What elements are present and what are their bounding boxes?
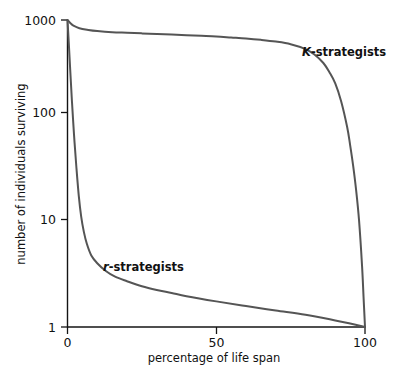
- x-tick-label-100: 100: [353, 335, 377, 350]
- y-tick-label-1000: 1000: [24, 13, 56, 28]
- y-tick-label-1: 1: [48, 320, 56, 335]
- x-tick-label-50: 50: [209, 335, 225, 350]
- chart-canvas: 1000 100 10 1 0 50 100 percentage of lif…: [0, 0, 401, 376]
- y-axis-title: number of individuals surviving: [14, 83, 28, 264]
- x-axis-title: percentage of life span: [148, 351, 281, 365]
- survivorship-curve-figure: 1000 100 10 1 0 50 100 percentage of lif…: [0, 0, 401, 376]
- y-tick-label-10: 10: [40, 212, 56, 227]
- series-label-k-rest: -strategists: [311, 45, 386, 59]
- series-label-k-strategists: K-strategists: [302, 45, 386, 59]
- y-tick-label-100: 100: [32, 105, 56, 120]
- x-tick-label-0: 0: [64, 335, 72, 350]
- series-label-r-rest: -strategists: [109, 260, 184, 274]
- series-label-r-strategists: r-strategists: [103, 260, 184, 274]
